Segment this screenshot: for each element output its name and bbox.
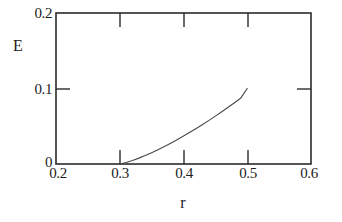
x-axis-ticks-top <box>120 13 248 27</box>
plot-canvas <box>0 0 342 222</box>
x-tick-label-0.5: 0.5 <box>239 166 257 181</box>
plot-frame <box>56 13 311 164</box>
x-tick-label-0.2: 0.2 <box>49 166 67 181</box>
chart-figure: 0.2 0.1 0 0.2 0.3 0.4 0.5 0.6 r E <box>0 0 342 222</box>
y-tick-label-0.2: 0.2 <box>34 6 52 21</box>
x-tick-label-0.6: 0.6 <box>300 166 318 181</box>
y-axis-title: E <box>13 38 23 54</box>
x-tick-label-0.3: 0.3 <box>111 166 129 181</box>
x-axis-title: r <box>180 195 185 211</box>
y-tick-label-0.1: 0.1 <box>34 82 52 97</box>
x-axis-ticks-bottom <box>120 150 248 164</box>
x-tick-label-0.4: 0.4 <box>175 166 193 181</box>
